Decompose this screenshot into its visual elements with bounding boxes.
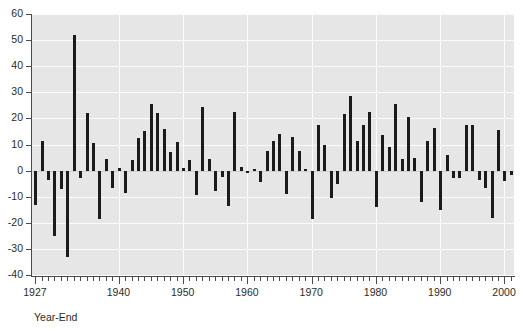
gridline-vertical (247, 14, 248, 275)
bar-1960 (246, 171, 249, 174)
x-tick-minor (61, 277, 62, 281)
x-tick-label: 1940 (107, 287, 130, 298)
bar-1978 (362, 125, 365, 171)
bar-1936 (92, 143, 95, 170)
gridline-horizontal (32, 118, 514, 119)
x-tick-minor (369, 277, 370, 281)
bar-1971 (317, 125, 320, 171)
x-tick-minor (93, 277, 94, 281)
x-tick-minor (254, 277, 255, 281)
bar-1991 (446, 155, 449, 171)
bar-1953 (201, 107, 204, 171)
x-tick-minor (453, 277, 454, 281)
bar-1969 (304, 169, 307, 170)
bar-1933 (73, 35, 76, 171)
bar-1959 (240, 167, 243, 171)
x-tick-minor (170, 277, 171, 281)
gridline-vertical (183, 14, 184, 275)
x-tick-minor (177, 277, 178, 281)
y-tick-label: 10 (0, 139, 23, 149)
bar-1997 (484, 171, 487, 188)
x-tick-label: 1927 (23, 287, 46, 298)
y-tick-label: 60 (0, 8, 23, 18)
x-tick-minor (273, 277, 274, 281)
y-tick-label: -20 (0, 217, 23, 227)
bar-1947 (163, 129, 166, 171)
x-tick-label: 1970 (300, 287, 323, 298)
gridline-vertical (376, 14, 377, 275)
bar-1977 (356, 141, 359, 171)
x-tick-minor (427, 277, 428, 281)
y-tick (26, 66, 32, 67)
bar-1974 (336, 171, 339, 184)
gridline-horizontal (32, 66, 514, 67)
x-tick-minor (42, 277, 43, 281)
bar-1984 (401, 159, 404, 171)
y-tick (26, 118, 32, 119)
x-tick-minor (67, 277, 68, 281)
bar-1964 (272, 141, 275, 171)
bar-1979 (368, 112, 371, 171)
bar-1981 (381, 135, 384, 170)
x-tick-minor (363, 277, 364, 281)
bar-1980 (375, 171, 378, 208)
x-tick-minor (234, 277, 235, 281)
bar-1955 (214, 171, 217, 192)
x-tick-minor (286, 277, 287, 281)
y-tick-label: -10 (0, 191, 23, 201)
y-tick-label: -40 (0, 269, 23, 279)
gridline-horizontal (32, 249, 514, 250)
bond-returns-bar-chart: 6050403020100-10-20-30-40 19271940195019… (0, 0, 522, 330)
bar-1996 (478, 171, 481, 180)
x-tick-minor (459, 277, 460, 281)
bar-1945 (150, 104, 153, 171)
bar-2001 (510, 171, 513, 175)
x-tick-minor (228, 277, 229, 281)
y-tick (26, 14, 32, 15)
y-tick (26, 171, 32, 172)
x-tick-minor (125, 277, 126, 281)
bar-1999 (497, 130, 500, 170)
x-tick-minor (447, 277, 448, 281)
x-tick-minor (80, 277, 81, 281)
bar-1931 (60, 171, 63, 189)
x-tick-minor (402, 277, 403, 281)
bar-1994 (465, 125, 468, 171)
x-tick-label: 1980 (364, 287, 387, 298)
x-tick-minor (324, 277, 325, 281)
y-tick-label: 40 (0, 60, 23, 70)
x-tick-minor (99, 277, 100, 281)
y-tick (26, 145, 32, 146)
x-tick-minor (498, 277, 499, 281)
bar-1949 (176, 142, 179, 171)
bar-1952 (195, 171, 198, 196)
bar-1961 (253, 169, 256, 170)
bar-1940 (118, 168, 121, 171)
bar-1957 (227, 171, 230, 206)
x-tick-major (35, 277, 36, 284)
bar-1927 (34, 171, 37, 205)
x-tick-minor (202, 277, 203, 281)
bar-1970 (311, 171, 314, 219)
x-tick-minor (138, 277, 139, 281)
x-tick-major (247, 277, 248, 284)
bar-1929 (47, 171, 50, 180)
x-tick-minor (434, 277, 435, 281)
bar-1975 (343, 114, 346, 170)
bar-1956 (221, 171, 224, 178)
x-tick-label: 1990 (428, 287, 451, 298)
gridline-horizontal (32, 92, 514, 93)
bar-1935 (86, 113, 89, 170)
gridline-horizontal (32, 14, 514, 15)
x-tick-minor (305, 277, 306, 281)
bar-1946 (156, 113, 159, 170)
x-tick-minor (189, 277, 190, 281)
bar-1937 (98, 171, 101, 219)
x-tick-label: 2000 (492, 287, 515, 298)
bar-1986 (413, 158, 416, 171)
bar-1951 (188, 160, 191, 170)
y-tick-label: 30 (0, 86, 23, 96)
y-tick (26, 197, 32, 198)
x-tick-minor (466, 277, 467, 281)
x-tick-minor (408, 277, 409, 281)
